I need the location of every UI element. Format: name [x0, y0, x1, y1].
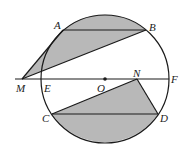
- shaded-region-top: [22, 15, 146, 79]
- label-c: C: [42, 112, 50, 124]
- label-o: O: [97, 82, 105, 94]
- label-b: B: [149, 21, 156, 33]
- label-a: A: [53, 19, 61, 31]
- label-f: F: [170, 73, 178, 85]
- geometry-diagram: A B M E O N F C D: [0, 0, 184, 155]
- label-d: D: [159, 112, 168, 124]
- label-n: N: [132, 67, 141, 79]
- label-m: M: [15, 82, 26, 94]
- center-point-o: [103, 77, 107, 81]
- label-e: E: [43, 82, 51, 94]
